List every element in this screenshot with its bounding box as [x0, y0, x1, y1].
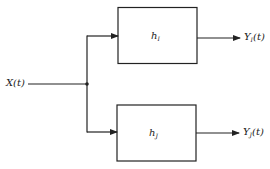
block-h-i-label-sub: I: [157, 35, 159, 42]
output-label-top: YI(t): [244, 32, 265, 43]
input-label: X(t): [6, 78, 25, 88]
block-h-i-label: hI: [151, 31, 160, 42]
block-h-j-label: hJ: [149, 128, 158, 139]
output-bottom-arg: (t): [252, 126, 264, 137]
input-label-text: X(t): [6, 77, 25, 88]
block-h-j-label-sub: J: [155, 132, 157, 139]
output-bottom-main: Y: [243, 126, 250, 137]
output-top-main: Y: [244, 31, 251, 42]
output-top-arg: (t): [253, 31, 265, 42]
block-diagram: [0, 0, 270, 169]
output-label-bottom: YJ(t): [243, 127, 264, 138]
